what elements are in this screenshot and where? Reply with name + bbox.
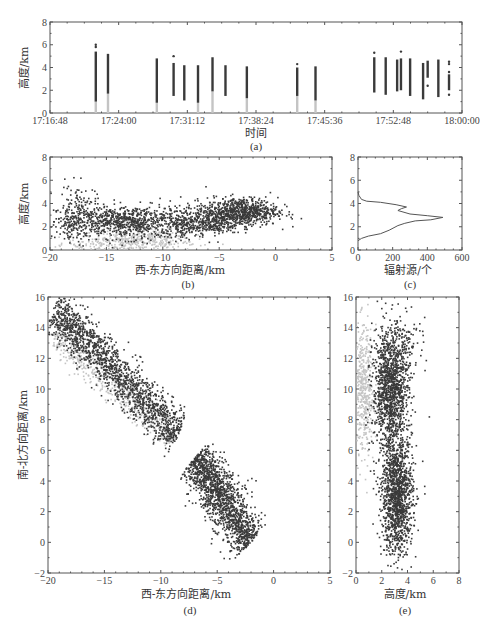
y-tick-label: 4: [42, 198, 47, 209]
x-tick-label: −15: [97, 575, 113, 586]
panel-b-label: (b): [182, 278, 195, 291]
panel-e-label: (e): [399, 604, 412, 617]
y-tick-label: 6: [348, 445, 353, 456]
y-tick-label: 12: [35, 353, 45, 364]
x-tick-label: 17:24:00: [101, 115, 137, 126]
y-tick-label: 8: [350, 152, 355, 163]
x-tick-label: 17:38:24: [238, 115, 274, 126]
x-tick-label: 6: [431, 575, 436, 586]
x-tick-label: 5: [328, 575, 333, 586]
panel-b-xlabel: 西-东方向距离/km: [135, 263, 226, 277]
y-tick-label: 4: [348, 476, 353, 487]
panel-b-ylabel: 高度/km: [17, 182, 31, 225]
x-tick-label: 18:00:00: [444, 115, 480, 126]
x-tick-label: 17:52:48: [376, 115, 412, 126]
y-tick-label: 4: [42, 62, 47, 73]
y-tick-label: 10: [35, 384, 45, 395]
panel-e: 02468−20246810121416 高度/km (e): [342, 292, 461, 618]
x-tick-label: 4: [405, 575, 410, 586]
x-tick-label: 0: [354, 575, 359, 586]
y-tick-label: 6: [42, 39, 47, 50]
y-tick-label: 8: [40, 414, 45, 425]
y-tick-label: −2: [342, 568, 353, 579]
x-tick-label: −5: [212, 575, 223, 586]
y-tick-label: 16: [35, 292, 45, 303]
y-tick-label: 6: [350, 175, 355, 186]
panel-c-label: (c): [404, 278, 417, 291]
y-tick-label: 0: [350, 245, 355, 256]
panel-a-ylabel: 高度/km: [17, 46, 31, 89]
panel-c-frame: [358, 157, 462, 250]
y-tick-label: 14: [35, 322, 45, 333]
figure-canvas: 17:16:4817:24:0017:31:1217:38:2417:45:36…: [0, 0, 486, 632]
panel-a-xlabel: 时间: [245, 127, 267, 140]
x-tick-label: 17:31:12: [170, 115, 206, 126]
x-tick-label: 600: [455, 252, 470, 263]
x-tick-label: −10: [153, 575, 169, 586]
y-tick-label: 6: [40, 445, 45, 456]
y-tick-label: 2: [42, 221, 47, 232]
y-tick-label: 16: [343, 292, 353, 303]
panel-d-label: (d): [184, 604, 197, 617]
x-tick-label: 0: [356, 252, 361, 263]
y-tick-label: 4: [40, 476, 45, 487]
y-tick-label: 0: [42, 245, 47, 256]
panel-d-frame: [48, 297, 330, 573]
y-tick-label: 10: [343, 384, 353, 395]
x-tick-label: 2: [379, 575, 384, 586]
panel-a: 17:16:4817:24:0017:31:1217:38:2417:45:36…: [17, 17, 480, 154]
y-tick-label: 2: [42, 85, 47, 96]
y-tick-label: 0: [40, 537, 45, 548]
y-tick-label: 2: [40, 506, 45, 517]
y-tick-label: 8: [348, 414, 353, 425]
y-tick-label: 6: [42, 175, 47, 186]
y-tick-label: 8: [42, 17, 47, 28]
y-tick-label: 12: [343, 353, 353, 364]
panel-d-ylabel: 南-北方向距离/km: [16, 389, 30, 480]
panel-c: 020040060002468 辐射源/个 (c): [350, 152, 470, 292]
y-tick-label: 8: [42, 152, 47, 163]
panel-c-xlabel: 辐射源/个: [384, 263, 432, 277]
x-tick-label: 17:16:48: [32, 115, 68, 126]
y-tick-label: −2: [34, 568, 45, 579]
panel-b-frame: [50, 157, 332, 250]
x-tick-label: 200: [385, 252, 400, 263]
panel-d: −20−15−10−505−20246810121416 南-北方向距离/km …: [16, 292, 333, 618]
y-tick-label: 0: [348, 537, 353, 548]
panel-d-xlabel: 西-东方向距离/km: [141, 587, 232, 601]
x-tick-label: −10: [155, 252, 171, 263]
y-tick-label: 0: [42, 108, 47, 119]
y-tick-label: 14: [343, 322, 353, 333]
x-tick-label: 8: [457, 575, 462, 586]
x-tick-label: 0: [273, 252, 278, 263]
panel-e-xlabel: 高度/km: [384, 587, 427, 601]
panel-b: −20−15−10−50502468 高度/km 西-东方向距离/km (b): [17, 152, 335, 292]
x-tick-label: 400: [420, 252, 435, 263]
x-tick-label: 0: [271, 575, 276, 586]
y-tick-label: 2: [348, 506, 353, 517]
x-tick-label: −5: [214, 252, 225, 263]
x-tick-label: −15: [99, 252, 115, 263]
y-tick-label: 2: [350, 221, 355, 232]
x-tick-label: 5: [330, 252, 335, 263]
x-tick-label: 17:45:36: [307, 115, 343, 126]
y-tick-label: 4: [350, 198, 355, 209]
panel-a-label: (a): [250, 140, 263, 153]
